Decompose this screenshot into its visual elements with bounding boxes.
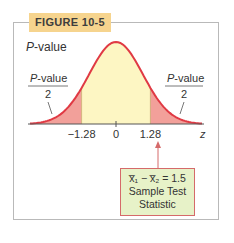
chart-title: P-value bbox=[26, 40, 67, 54]
callout-line1: x̅₁ − x̅₂ = 1.5 bbox=[121, 172, 194, 185]
callout-line2: Sample Test bbox=[121, 185, 194, 198]
right-tail-numerator: P-value bbox=[167, 72, 204, 84]
left-tail-area bbox=[30, 88, 82, 124]
center-area bbox=[82, 42, 151, 124]
test-statistic-callout: x̅₁ − x̅₂ = 1.5 Sample Test Statistic bbox=[120, 168, 195, 216]
tick-label-zero: 0 bbox=[113, 128, 119, 140]
left-tail-numerator: P-value bbox=[30, 72, 67, 84]
axis-label-z: z bbox=[199, 128, 206, 140]
normal-curve-chart: P-value P-value 2 P-value 2 −1.28 0 1.28… bbox=[0, 0, 234, 243]
left-tail-denominator: 2 bbox=[45, 88, 51, 100]
right-tail-area bbox=[150, 88, 202, 124]
tick-label-pos: 1.28 bbox=[140, 128, 161, 140]
title-italic: P bbox=[26, 40, 34, 54]
arrow-head-icon bbox=[155, 141, 161, 148]
right-tail-pointer bbox=[180, 102, 184, 114]
right-tail-denominator: 2 bbox=[181, 88, 187, 100]
left-tail-pointer bbox=[48, 102, 52, 114]
callout-line3: Statistic bbox=[121, 198, 194, 211]
title-rest: -value bbox=[34, 40, 67, 54]
tick-label-neg: −1.28 bbox=[68, 128, 96, 140]
